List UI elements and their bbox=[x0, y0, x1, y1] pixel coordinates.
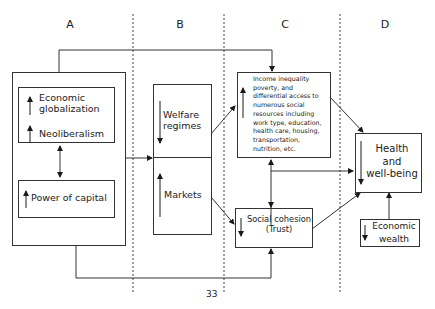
welfare-regimes-label: Welfare regimes bbox=[163, 110, 201, 132]
welfare-markets-divider bbox=[153, 157, 212, 158]
health-label: Health and well-being bbox=[364, 143, 420, 181]
neoliberalism-label: Neoliberalism bbox=[39, 129, 104, 140]
markets-label: Markets bbox=[164, 190, 202, 201]
bottom-loop-arrow bbox=[76, 245, 271, 278]
social-to-health-arrow bbox=[312, 193, 360, 229]
economic-wealth-label: Economic wealth bbox=[369, 220, 419, 245]
top-loop-arrow bbox=[59, 50, 272, 72]
social-cohesion-label: Social cohesion (Trust) bbox=[246, 215, 312, 234]
page-number: 33 bbox=[206, 289, 217, 299]
markets-to-social-arrow bbox=[211, 197, 234, 224]
power-of-capital-label: Power of capital bbox=[31, 193, 107, 204]
welfare-markets-box bbox=[153, 84, 212, 235]
economic-globalization-label: Economic globalization bbox=[39, 93, 100, 115]
income-to-health-arrow bbox=[330, 97, 363, 132]
welfare-to-income-arrow bbox=[211, 106, 235, 134]
income-inequality-text: Income inequality poverty, and different… bbox=[253, 75, 331, 153]
